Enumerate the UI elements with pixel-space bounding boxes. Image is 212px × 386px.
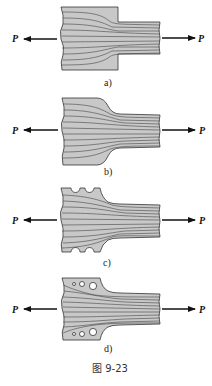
stress-flow-diagram: P P a) P P b) <box>0 0 212 386</box>
panel-a: P P a) <box>12 7 205 89</box>
plate-d <box>61 278 160 340</box>
medium-hole <box>80 332 85 337</box>
force-label-right-d: P <box>199 304 206 315</box>
force-label-right-b: P <box>199 125 206 136</box>
panel-b: P P b) <box>12 98 206 178</box>
panel-d: P P d) <box>12 278 206 355</box>
force-label-left-b: P <box>12 125 19 136</box>
force-label-left-d: P <box>12 304 19 315</box>
small-hole <box>73 333 76 336</box>
panel-label-b: b) <box>104 166 112 178</box>
figure-caption: 图 9-23 <box>92 363 128 374</box>
large-hole <box>89 282 96 289</box>
force-label-left-c: P <box>12 215 19 226</box>
panel-label-a: a) <box>104 77 112 89</box>
medium-hole <box>80 282 85 287</box>
plate-b <box>61 98 160 165</box>
panel-label-d: d) <box>104 343 112 355</box>
force-label-right-c: P <box>199 215 206 226</box>
plate-a <box>60 7 160 70</box>
panel-c: P P c) <box>12 188 206 269</box>
panel-label-c: c) <box>103 257 111 269</box>
force-label-right-a: P <box>198 33 205 44</box>
large-hole <box>89 328 96 335</box>
small-hole <box>73 283 76 286</box>
force-label-left-a: P <box>12 33 19 44</box>
